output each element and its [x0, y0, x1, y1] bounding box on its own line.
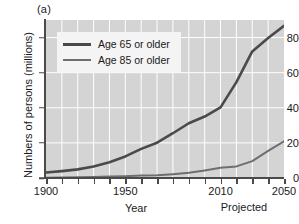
x-tick-mark-2040 [268, 179, 270, 184]
y-tick-label-60: 60 [267, 67, 299, 79]
legend-line-icon-age-85 [63, 59, 91, 61]
projected-bracket: Projected [203, 201, 285, 219]
x-tick-mark-2020 [236, 179, 238, 184]
y-tick-label-0: 0 [267, 172, 299, 184]
y-tick-label-20: 20 [267, 137, 299, 149]
x-tick-label-1950: 1950 [113, 185, 137, 197]
legend-label-age-85: Age 85 or older [98, 54, 170, 66]
y-axis-label: Numbers of persons (millions) [22, 20, 34, 190]
legend-item-age-85: Age 85 or older [63, 52, 175, 68]
x-tick-mark-1930 [94, 179, 96, 184]
series-line-2 [46, 141, 284, 177]
y-tick-label-80: 80 [267, 32, 299, 44]
y-tick-mark-0 [39, 177, 44, 179]
x-tick-mark-2030 [252, 179, 254, 184]
y-tick-mark-40 [39, 107, 44, 109]
x-tick-label-2010: 2010 [208, 185, 232, 197]
y-tick-mark-20 [39, 142, 44, 144]
figure-panel-a: (a) 020406080 1900195020102050 Numbers o… [0, 0, 299, 224]
legend-line-icon-age-65 [63, 43, 91, 46]
x-tick-mark-1960 [141, 179, 143, 184]
x-tick-label-1900: 1900 [34, 185, 58, 197]
y-tick-mark-60 [39, 72, 44, 74]
x-tick-mark-1950 [125, 179, 127, 184]
x-tick-mark-2000 [205, 179, 207, 184]
x-tick-mark-2050 [284, 179, 286, 184]
y-axis-spine [44, 19, 46, 179]
x-tick-mark-1920 [78, 179, 80, 184]
legend-label-age-65: Age 65 or older [98, 38, 170, 50]
y-tick-mark-80 [39, 37, 44, 39]
legend-item-age-65: Age 65 or older [63, 36, 175, 52]
projected-label: Projected [203, 201, 285, 213]
x-tick-mark-1990 [189, 179, 191, 184]
y-tick-label-40: 40 [267, 102, 299, 114]
x-tick-mark-1980 [173, 179, 175, 184]
x-axis-spine [44, 177, 284, 179]
chart-legend: Age 65 or older Age 85 or older [57, 32, 181, 72]
x-tick-mark-2010 [221, 179, 223, 184]
x-tick-mark-1970 [157, 179, 159, 184]
panel-label: (a) [37, 3, 51, 15]
x-tick-label-2050: 2050 [272, 185, 296, 197]
x-tick-mark-1910 [62, 179, 64, 184]
x-tick-mark-1900 [46, 179, 48, 184]
x-tick-mark-1940 [109, 179, 111, 184]
x-axis-label: Year [46, 202, 226, 214]
